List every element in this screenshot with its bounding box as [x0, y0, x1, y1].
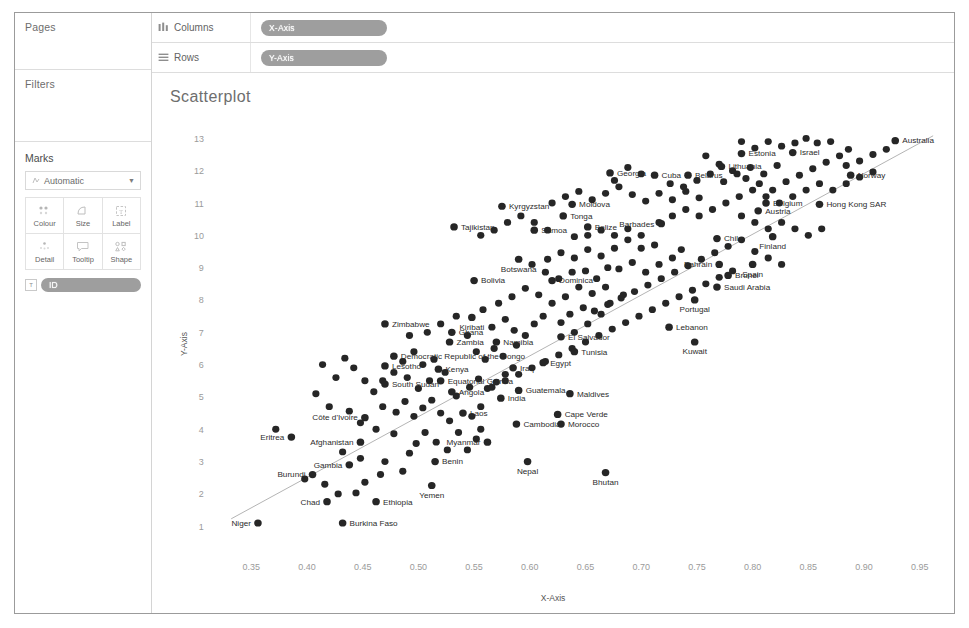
- scatter-point[interactable]: [575, 188, 582, 195]
- scatter-point[interactable]: [611, 245, 618, 252]
- scatter-point[interactable]: [662, 300, 669, 307]
- scatter-point[interactable]: [869, 151, 876, 158]
- scatter-point[interactable]: [352, 490, 359, 497]
- scatter-point[interactable]: [635, 313, 642, 320]
- scatter-point[interactable]: [658, 275, 665, 282]
- scatter-point[interactable]: [809, 165, 816, 172]
- scatter-point[interactable]: [393, 409, 400, 416]
- scatter-point[interactable]: [377, 471, 384, 478]
- scatter-point[interactable]: [379, 403, 386, 410]
- scatter-point[interactable]: [584, 246, 591, 253]
- scatter-point[interactable]: [791, 139, 798, 146]
- scatter-point[interactable]: [814, 139, 821, 146]
- rows-shelf[interactable]: Rows Y-Axis: [152, 43, 954, 73]
- scatter-point[interactable]: [559, 212, 567, 219]
- scatter-point[interactable]: [323, 498, 331, 505]
- scatter-point[interactable]: [444, 447, 451, 454]
- scatter-point[interactable]: [615, 266, 622, 273]
- scatter-point[interactable]: [339, 519, 347, 526]
- scatter-point[interactable]: [657, 220, 665, 227]
- scatter-point[interactable]: [816, 180, 823, 187]
- scatter-point[interactable]: [696, 213, 703, 220]
- scatter-point[interactable]: [669, 213, 676, 220]
- scatter-point[interactable]: [406, 450, 413, 457]
- scatter-point[interactable]: [437, 410, 444, 417]
- scatter-point[interactable]: [738, 213, 745, 220]
- scatter-point[interactable]: [539, 359, 547, 366]
- scatter-point[interactable]: [751, 219, 758, 226]
- scatter-point[interactable]: [676, 293, 683, 300]
- scatter-point[interactable]: [725, 243, 732, 250]
- scatter-point[interactable]: [421, 429, 428, 436]
- columns-shelf[interactable]: Columns X-Axis: [152, 13, 954, 43]
- scatter-point[interactable]: [321, 481, 328, 488]
- scatter-point[interactable]: [682, 206, 689, 213]
- scatter-point[interactable]: [615, 183, 622, 190]
- scatter-point[interactable]: [381, 458, 388, 465]
- scatter-point[interactable]: [350, 364, 357, 371]
- scatter-point[interactable]: [542, 269, 549, 276]
- scatter-point[interactable]: [843, 180, 850, 187]
- scatter-point[interactable]: [738, 138, 745, 145]
- scatter-point[interactable]: [548, 200, 555, 207]
- scatter-point[interactable]: [584, 232, 591, 239]
- scatter-point[interactable]: [390, 430, 397, 437]
- scatter-point[interactable]: [823, 159, 830, 166]
- scatter-point[interactable]: [891, 137, 899, 144]
- scatter-point[interactable]: [598, 311, 605, 318]
- scatter-point[interactable]: [504, 219, 511, 226]
- scatter-point[interactable]: [629, 259, 636, 266]
- scatter-point[interactable]: [419, 405, 426, 412]
- scatter-point[interactable]: [571, 233, 578, 240]
- scatter-point[interactable]: [370, 388, 377, 395]
- scatter-point[interactable]: [566, 390, 574, 397]
- scatter-point[interactable]: [829, 187, 836, 194]
- scatter-point[interactable]: [736, 193, 743, 200]
- scatter-point[interactable]: [479, 306, 486, 313]
- scatter-point[interactable]: [680, 183, 687, 190]
- scatter-point[interactable]: [691, 338, 699, 345]
- scatter-point[interactable]: [568, 201, 576, 208]
- scatter-point[interactable]: [722, 200, 729, 207]
- scatter-point[interactable]: [511, 327, 518, 334]
- scatter-point[interactable]: [571, 348, 579, 355]
- scatter-point[interactable]: [433, 439, 440, 446]
- scatter-point[interactable]: [749, 261, 757, 268]
- scatter-point[interactable]: [381, 362, 389, 369]
- scatter-point[interactable]: [836, 152, 843, 159]
- scatter-point[interactable]: [711, 249, 718, 256]
- scatter-point[interactable]: [678, 246, 685, 253]
- scatter-point[interactable]: [713, 283, 721, 290]
- scatter-point[interactable]: [827, 138, 834, 145]
- scatter-point[interactable]: [651, 172, 659, 179]
- scatter-point[interactable]: [339, 448, 346, 455]
- scatter-point[interactable]: [455, 429, 462, 436]
- scatter-point[interactable]: [696, 194, 703, 201]
- scatter-point[interactable]: [372, 426, 379, 433]
- scatter-point[interactable]: [557, 420, 565, 427]
- scatter-point[interactable]: [381, 320, 389, 327]
- chevron-down-icon[interactable]: ▼: [128, 177, 136, 184]
- scatter-point[interactable]: [593, 275, 600, 282]
- scatter-point[interactable]: [765, 138, 772, 145]
- scatter-point[interactable]: [498, 203, 506, 210]
- scatter-point[interactable]: [493, 338, 501, 345]
- scatter-point[interactable]: [689, 287, 696, 294]
- scatter-point[interactable]: [883, 146, 890, 153]
- scatter-point[interactable]: [399, 468, 406, 475]
- scatter-point[interactable]: [312, 390, 319, 397]
- scatter-point[interactable]: [649, 306, 656, 313]
- marks-size-button[interactable]: Size: [64, 198, 102, 234]
- scatter-point[interactable]: [778, 261, 785, 268]
- scatter-point[interactable]: [361, 414, 369, 421]
- scatter-point[interactable]: [584, 223, 592, 230]
- scatter-point[interactable]: [796, 172, 803, 179]
- scatter-point[interactable]: [644, 282, 651, 289]
- scatter-point[interactable]: [778, 143, 785, 150]
- scatter-point[interactable]: [602, 469, 610, 476]
- scatter-point[interactable]: [524, 458, 532, 465]
- visualization-pane[interactable]: Scatterplot 123456789101112130.350.400.4…: [152, 74, 954, 613]
- scatter-point[interactable]: [713, 235, 721, 242]
- scatter-point[interactable]: [477, 232, 484, 239]
- scatter-point[interactable]: [765, 255, 772, 262]
